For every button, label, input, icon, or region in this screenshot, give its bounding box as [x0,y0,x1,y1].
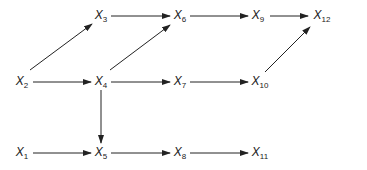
node-subscript: 9 [260,15,264,24]
node-variable: X [174,145,182,159]
node-variable: X [314,8,322,22]
node-variable: X [16,145,24,159]
node-x11: X11 [252,146,268,161]
node-x7: X7 [174,75,186,90]
node-variable: X [95,8,103,22]
node-x6: X6 [174,9,186,24]
node-subscript: 2 [24,81,28,90]
node-subscript: 1 [24,152,28,161]
node-subscript: 7 [182,81,186,90]
node-subscript: 11 [260,152,268,161]
node-variable: X [174,8,182,22]
node-variable: X [252,8,260,22]
node-variable: X [16,74,24,88]
node-variable: X [95,145,103,159]
node-subscript: 12 [322,15,331,24]
node-x8: X8 [174,146,186,161]
node-x2: X2 [16,75,28,90]
node-x4: X4 [95,75,107,90]
node-x9: X9 [252,9,264,24]
node-variable: X [252,74,260,88]
node-x3: X3 [95,9,107,24]
node-variable: X [95,74,103,88]
node-x10: X10 [252,75,269,90]
node-subscript: 4 [103,81,107,90]
node-variable: X [252,145,260,159]
edge-x4-to-x6 [110,25,170,70]
directed-graph-diagram: X1X2X3X4X5X6X7X8X9X10X11X12 [0,0,367,170]
node-subscript: 6 [182,15,186,24]
node-subscript: 8 [182,152,186,161]
edge-x2-to-x3 [30,24,92,70]
edge-x10-to-x12 [265,27,310,72]
node-x5: X5 [95,146,107,161]
node-subscript: 5 [103,152,107,161]
node-x1: X1 [16,146,28,161]
node-subscript: 10 [260,81,269,90]
node-subscript: 3 [103,15,107,24]
node-variable: X [174,74,182,88]
node-x12: X12 [314,9,331,24]
